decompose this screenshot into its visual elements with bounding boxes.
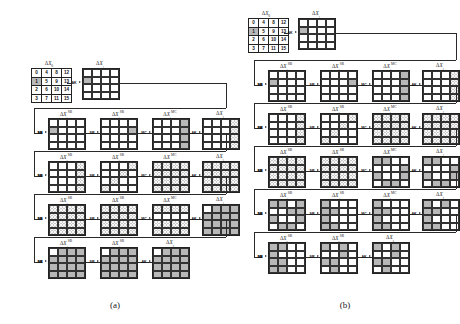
state-cell	[212, 228, 221, 236]
flow-arrow	[199, 174, 201, 176]
state-cell	[432, 172, 441, 180]
state-cell	[76, 177, 85, 185]
state-cell	[382, 129, 391, 137]
byte-index-cell: 12	[62, 69, 72, 78]
state-cell	[212, 127, 221, 135]
operation-label-ak: AK	[189, 131, 199, 135]
state-cell	[373, 208, 382, 216]
connector-line	[254, 146, 255, 171]
state-grid	[48, 247, 86, 279]
state-cell	[101, 263, 110, 271]
state-cell	[269, 114, 278, 122]
state-cell	[400, 129, 409, 137]
state-cell	[287, 180, 296, 188]
operation-label-sr: SR	[307, 212, 317, 216]
connector-line	[284, 33, 288, 34]
state-cell	[339, 79, 348, 87]
state-cell	[450, 129, 459, 137]
state-grid	[422, 113, 460, 145]
state-cell	[119, 228, 128, 236]
state-cell	[432, 94, 441, 102]
state-cell	[76, 263, 85, 271]
state-cell	[382, 251, 391, 259]
state-cell	[432, 122, 441, 130]
state-cell	[119, 134, 128, 142]
state-cell	[76, 162, 85, 170]
state-cell	[321, 243, 330, 251]
state-cell	[373, 180, 382, 188]
state-cell	[373, 71, 382, 79]
connector-line	[34, 237, 226, 238]
connector-line	[456, 171, 457, 189]
state-cell	[296, 243, 305, 251]
state-label: ΔX₄	[424, 148, 456, 156]
state-cell	[373, 94, 382, 102]
state-grid	[268, 199, 306, 231]
byte-index-cell: 6	[259, 36, 269, 45]
state-cell	[101, 142, 110, 150]
operation-label-sb: SB	[255, 255, 265, 259]
state-cell	[432, 129, 441, 137]
state-cell	[321, 86, 330, 94]
state-cell	[101, 170, 110, 178]
state-cell	[348, 114, 357, 122]
flow-arrow	[45, 131, 47, 133]
state-grid	[372, 70, 410, 102]
state-cell	[153, 263, 162, 271]
state-cell	[110, 256, 119, 264]
state-cell	[373, 137, 382, 145]
operation-label-sr: SR	[307, 255, 317, 259]
state-grid	[48, 204, 86, 236]
state-cell	[171, 271, 180, 279]
state-cell	[339, 243, 348, 251]
state-cell	[278, 122, 287, 130]
byte-index-cell: 1	[249, 27, 259, 36]
state-cell	[153, 119, 162, 127]
state-grid	[100, 161, 138, 193]
state-cell	[171, 213, 180, 221]
state-cell	[339, 258, 348, 266]
state-cell	[317, 27, 326, 35]
state-cell	[373, 200, 382, 208]
state-cell	[382, 208, 391, 216]
state-cell	[269, 223, 278, 231]
state-cell	[180, 119, 189, 127]
state-cell	[269, 258, 278, 266]
state-cell	[203, 162, 212, 170]
state-cell	[153, 170, 162, 178]
state-cell	[432, 71, 441, 79]
operation-label-ak: AK	[139, 260, 149, 264]
state-cell	[212, 185, 221, 193]
operation-label-mc: MC	[359, 212, 369, 216]
state-cell	[339, 208, 348, 216]
state-cell	[450, 122, 459, 130]
state-cell	[450, 172, 459, 180]
state-cell	[348, 172, 357, 180]
flow-arrow	[97, 260, 99, 262]
operation-label-sr: SR	[307, 169, 317, 173]
state-cell	[423, 157, 432, 165]
state-cell	[423, 200, 432, 208]
state-cell	[339, 251, 348, 259]
state-grid	[100, 204, 138, 236]
operation-label-ak: AK	[409, 169, 419, 173]
state-cell	[441, 215, 450, 223]
state-cell	[119, 142, 128, 150]
state-cell	[128, 205, 137, 213]
state-cell	[162, 185, 171, 193]
byte-index-cell: 5	[259, 27, 269, 36]
state-cell	[67, 220, 76, 228]
state-cell	[296, 180, 305, 188]
state-cell	[128, 142, 137, 150]
state-cell	[373, 165, 382, 173]
state-cell	[212, 213, 221, 221]
operation-label-mc: MC	[139, 131, 149, 135]
connector-line	[226, 133, 227, 151]
state-cell	[330, 172, 339, 180]
flow-arrow	[45, 217, 47, 219]
state-cell	[432, 208, 441, 216]
state-cell	[203, 228, 212, 236]
state-cell	[171, 142, 180, 150]
state-cell	[391, 94, 400, 102]
state-cell	[180, 228, 189, 236]
